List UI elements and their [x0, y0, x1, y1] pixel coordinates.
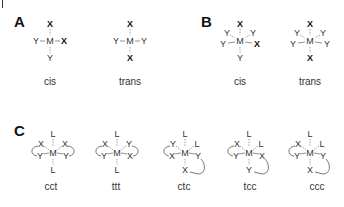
svg-text:Y: Y [170, 139, 176, 149]
svg-text:L: L [319, 139, 324, 149]
svg-text:L: L [182, 129, 187, 139]
svg-text:M: M [245, 148, 253, 158]
svg-text:Y: Y [320, 28, 326, 38]
svg-text:X: X [38, 139, 44, 149]
svg-text:X: X [307, 53, 313, 63]
svg-text:L: L [114, 165, 119, 175]
svg-text:X: X [61, 36, 67, 46]
svg-text:X: X [102, 139, 108, 149]
svg-text:Y: Y [126, 139, 132, 149]
svg-text:M: M [49, 148, 57, 158]
svg-text:M: M [236, 36, 244, 46]
svg-text:Y: Y [33, 36, 39, 46]
svg-text:M: M [113, 148, 121, 158]
svg-text:Y: Y [290, 39, 296, 49]
svg-text:Y: Y [113, 36, 119, 46]
svg-text:Y: Y [141, 36, 147, 46]
svg-text:Y: Y [324, 39, 330, 49]
structure-c-tcc: L X L Y M X Y [224, 130, 274, 178]
caption-b-trans: trans [290, 76, 330, 87]
svg-text:X: X [127, 19, 133, 29]
caption-c-ctc: ctc [164, 181, 204, 192]
svg-text:Y: Y [37, 151, 43, 161]
svg-text:X: X [254, 39, 260, 49]
structure-c-cct: L X X Y M Y L [28, 130, 78, 176]
svg-text:L: L [258, 139, 263, 149]
svg-text:Y: Y [220, 39, 226, 49]
svg-text:X: X [234, 139, 240, 149]
structure-c-ctc: L Y L X M Y X [160, 130, 210, 178]
svg-text:Y: Y [320, 151, 326, 161]
structure-a-cis: X Y M X Y [30, 18, 70, 64]
svg-text:Y: Y [237, 53, 243, 63]
caption-b-cis: cis [220, 76, 260, 87]
svg-text:L: L [194, 139, 199, 149]
svg-text:X: X [259, 151, 265, 161]
svg-text:X: X [307, 19, 313, 29]
caption-a-cis: cis [30, 76, 70, 87]
svg-text:Y: Y [246, 165, 252, 175]
svg-text:Y: Y [294, 28, 300, 38]
svg-text:M: M [181, 148, 189, 158]
corner-mark [2, 0, 3, 8]
caption-c-ccc: ccc [297, 181, 337, 192]
svg-text:Y: Y [195, 151, 201, 161]
panel-label-a: A [14, 13, 25, 30]
svg-text:L: L [307, 129, 312, 139]
svg-text:Y: Y [294, 151, 300, 161]
svg-text:X: X [169, 151, 175, 161]
structure-b-cis: X Y Y Y M X Y [218, 18, 262, 64]
svg-text:M: M [46, 36, 54, 46]
svg-text:X: X [62, 139, 68, 149]
svg-text:L: L [50, 129, 55, 139]
structure-b-trans: X Y Y Y M Y X [288, 18, 332, 64]
svg-text:M: M [306, 148, 314, 158]
svg-text:X: X [47, 19, 53, 29]
svg-text:X: X [127, 53, 133, 63]
caption-a-trans: trans [110, 76, 150, 87]
svg-text:Y: Y [250, 28, 256, 38]
svg-text:L: L [246, 129, 251, 139]
svg-text:M: M [126, 36, 134, 46]
caption-c-tcc: tcc [230, 181, 270, 192]
svg-text:X: X [182, 165, 188, 175]
panel-label-b: B [201, 13, 212, 30]
structure-c-ccc: L X L Y M Y X [285, 130, 335, 178]
svg-text:X: X [295, 139, 301, 149]
svg-text:X: X [307, 165, 313, 175]
svg-text:Y: Y [224, 28, 230, 38]
svg-text:Y: Y [47, 53, 53, 63]
svg-text:Y: Y [101, 151, 107, 161]
structure-a-trans: X Y M Y X [110, 18, 150, 64]
structure-c-ttt: L X Y Y M X L [92, 130, 142, 176]
caption-c-ttt: ttt [96, 181, 136, 192]
caption-c-cct: cct [31, 181, 71, 192]
svg-text:L: L [114, 129, 119, 139]
svg-text:X: X [127, 151, 133, 161]
svg-text:M: M [306, 36, 314, 46]
svg-text:Y: Y [63, 151, 69, 161]
svg-text:X: X [237, 19, 243, 29]
svg-text:L: L [50, 165, 55, 175]
panel-label-c: C [14, 122, 25, 139]
svg-text:Y: Y [233, 151, 239, 161]
